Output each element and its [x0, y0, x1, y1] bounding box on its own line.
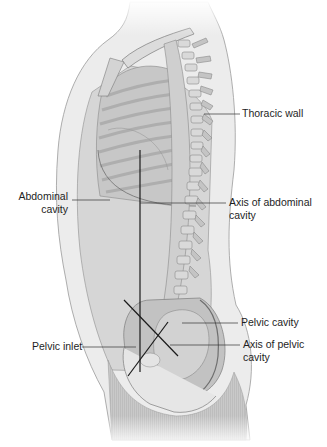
label-abdominal-cavity-line2: cavity [10, 203, 68, 216]
label-pelvic-cavity: Pelvic cavity [241, 316, 299, 329]
anatomy-diagram [0, 0, 327, 447]
label-axis-pelvic-line2: cavity [243, 351, 304, 364]
label-pelvic-inlet: Pelvic inlet [32, 340, 82, 353]
label-thoracic-wall: Thoracic wall [242, 107, 303, 120]
label-axis-abdominal-line1: Axis of abdominal [229, 196, 312, 209]
label-axis-of-abdominal-cavity: Axis of abdominal cavity [229, 196, 312, 222]
label-axis-of-pelvic-cavity: Axis of pelvic cavity [243, 338, 304, 364]
label-axis-pelvic-line1: Axis of pelvic [243, 338, 304, 351]
label-axis-abdominal-line2: cavity [229, 209, 312, 222]
label-abdominal-cavity: Abdominal cavity [10, 190, 68, 216]
label-abdominal-cavity-line1: Abdominal [10, 190, 68, 203]
